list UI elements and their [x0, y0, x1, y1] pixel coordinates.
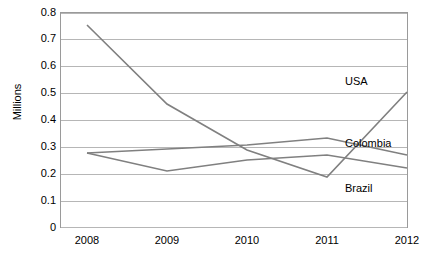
- series-label-colombia: Colombia: [345, 137, 391, 149]
- y-tick-0.1: 0.1: [22, 195, 56, 206]
- series-lines: [60, 12, 408, 228]
- y-tick-0: 0: [22, 222, 56, 233]
- y-tick-0.2: 0.2: [22, 168, 56, 179]
- x-tick-2009: 2009: [137, 234, 197, 246]
- y-tick-0.8: 0.8: [22, 7, 56, 18]
- x-tick-2010: 2010: [217, 234, 277, 246]
- series-label-brazil: Brazil: [345, 182, 373, 194]
- x-tick-2008: 2008: [57, 234, 117, 246]
- line-chart: Millions 0 0.1 0.2 0.3 0.4 0.5 0.6 0.7 0…: [0, 0, 428, 272]
- y-tick-0.5: 0.5: [22, 87, 56, 98]
- x-tick-2012: 2012: [377, 234, 428, 246]
- x-tick-2011: 2011: [297, 234, 357, 246]
- y-tick-0.3: 0.3: [22, 141, 56, 152]
- y-tick-0.4: 0.4: [22, 114, 56, 125]
- y-tick-0.7: 0.7: [22, 33, 56, 44]
- series-line-brazil: [87, 153, 407, 171]
- series-label-usa: USA: [345, 75, 368, 87]
- series-line-usa: [87, 25, 407, 177]
- y-tick-0.6: 0.6: [22, 60, 56, 71]
